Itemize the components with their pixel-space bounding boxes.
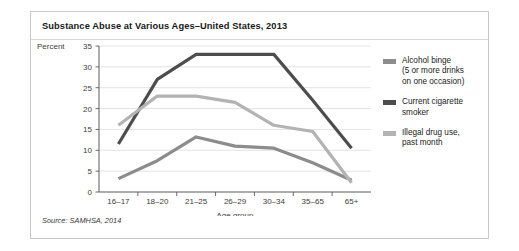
svg-text:18–20: 18–20: [146, 197, 169, 206]
svg-text:15: 15: [83, 125, 92, 134]
x-axis-label: Age group: [217, 211, 254, 216]
svg-text:21–25: 21–25: [185, 197, 208, 206]
svg-text:35: 35: [83, 42, 92, 51]
legend-swatch: [383, 100, 396, 105]
legend-swatch: [383, 131, 396, 136]
svg-text:65+: 65+: [345, 197, 359, 206]
legend-label: Current cigarettesmoker: [402, 97, 463, 118]
legend-swatch: [383, 59, 396, 64]
legend-item: Illegal drug use,past month: [383, 128, 487, 149]
legend-label: Illegal drug use,past month: [402, 128, 460, 149]
series-lines: [118, 54, 351, 182]
legend-item: Current cigarettesmoker: [383, 97, 487, 118]
svg-text:20: 20: [83, 105, 92, 114]
chart-legend: Alcohol binge(5 or more drinkson one occ…: [383, 56, 487, 159]
x-axis-tick-marks: [138, 192, 332, 196]
svg-text:25: 25: [83, 84, 92, 93]
svg-text:5: 5: [88, 167, 93, 176]
x-axis-tick-labels: 16–1718–2021–2526–2930–3435–6565+: [107, 197, 358, 206]
legend-item: Alcohol binge(5 or more drinkson one occ…: [383, 56, 487, 87]
svg-text:10: 10: [83, 146, 92, 155]
y-axis-tick-labels: 05101520253035: [83, 42, 92, 197]
svg-text:16–17: 16–17: [107, 197, 130, 206]
svg-text:30–34: 30–34: [263, 197, 286, 206]
svg-text:0: 0: [88, 188, 93, 197]
svg-text:26–29: 26–29: [224, 197, 247, 206]
y-axis-label: Percent: [37, 42, 65, 51]
svg-text:35–65: 35–65: [302, 197, 325, 206]
source-note: Source: SAMHSA, 2014: [42, 216, 121, 225]
y-axis-tick-marks: [96, 46, 100, 192]
page-title: Substance Abuse at Various Ages–United S…: [42, 21, 287, 31]
svg-text:30: 30: [83, 63, 92, 72]
legend-label: Alcohol binge(5 or more drinkson one occ…: [402, 56, 464, 87]
figure-panel: Substance Abuse at Various Ages–United S…: [30, 11, 489, 239]
